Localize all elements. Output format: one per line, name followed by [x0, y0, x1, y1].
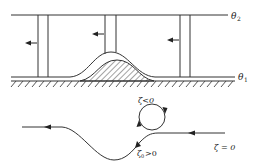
theta2-isentrope: θ 2 — [11, 11, 241, 22]
flow-arrow-center-icon — [92, 32, 104, 37]
flow-arrow-right-icon — [167, 38, 179, 43]
theta2-subscript: 2 — [237, 15, 241, 22]
vorticity-trajectory — [22, 104, 225, 160]
upstream-vorticity-label: ζ = 0 — [214, 143, 235, 152]
lee-vorticity-relation: >0 — [145, 149, 157, 158]
air-column-right — [180, 15, 190, 77]
flow-arrow-left-icon — [25, 41, 37, 46]
loop-vorticity-label: ζ<0 — [138, 96, 154, 105]
air-column-left — [38, 15, 48, 77]
theta1-subscript: 1 — [244, 76, 248, 83]
mountain-flow-diagram: θ 2 θ 1 — [0, 0, 255, 166]
mountain-ridge — [80, 60, 154, 81]
trajectory-arrow-downstream-icon — [44, 125, 51, 130]
air-column-center — [105, 15, 116, 54]
trajectory-arrow-upstream-icon — [188, 131, 195, 136]
lee-vorticity-subscript: 0 — [141, 153, 144, 159]
anticyclonic-loop — [139, 104, 165, 130]
ground-surface — [11, 81, 235, 87]
lee-vorticity-label: ζ 0 >0 — [137, 149, 157, 159]
